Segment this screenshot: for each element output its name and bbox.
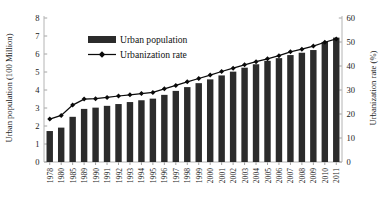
left-tick-label: 4 xyxy=(35,85,40,95)
bar xyxy=(184,87,190,162)
left-tick-label: 2 xyxy=(35,121,39,131)
right-tick-label: 10 xyxy=(347,133,356,143)
line-marker xyxy=(311,44,316,49)
x-category-label: 2008 xyxy=(298,168,307,183)
line-marker xyxy=(299,47,304,52)
bar xyxy=(310,50,316,162)
left-tick-label: 5 xyxy=(35,67,39,77)
line-marker xyxy=(162,86,167,91)
line-marker xyxy=(105,95,110,100)
x-category-label: 1999 xyxy=(195,168,204,183)
bar xyxy=(253,64,259,162)
line-marker xyxy=(82,97,87,102)
bar xyxy=(58,128,64,162)
x-category-label: 1995 xyxy=(149,168,158,183)
x-category-label: 2006 xyxy=(275,168,284,183)
left-axis-title: Urban population (100 Million) xyxy=(4,33,14,142)
left-tick-label: 8 xyxy=(35,13,39,23)
bar xyxy=(138,100,144,162)
line-marker xyxy=(139,91,144,96)
line-marker xyxy=(242,62,247,67)
bar xyxy=(104,106,110,162)
bar xyxy=(92,108,98,162)
x-category-label: 2003 xyxy=(241,168,250,183)
x-category-label: 2010 xyxy=(321,168,330,183)
right-tick-label: 60 xyxy=(347,13,356,23)
bar xyxy=(127,102,133,162)
bar xyxy=(81,109,87,162)
bar xyxy=(322,42,328,162)
bar xyxy=(333,38,339,162)
left-tick-label: 6 xyxy=(35,49,39,59)
bar xyxy=(218,75,224,162)
x-category-label: 1991 xyxy=(103,168,112,183)
legend-entry-urban-population: Urban population xyxy=(88,34,188,45)
line-marker xyxy=(116,94,121,99)
x-category-label: 2000 xyxy=(206,168,215,183)
right-tick-label: 20 xyxy=(347,109,356,119)
bar xyxy=(241,68,247,162)
left-tick-label: 1 xyxy=(35,139,39,149)
x-category-label: 1996 xyxy=(160,168,169,183)
bar xyxy=(264,61,270,162)
x-category-label: 1994 xyxy=(137,168,146,183)
right-axis-ticks: 0102030405060 xyxy=(339,13,355,167)
x-category-label: 2011 xyxy=(332,168,341,183)
legend-label-urbanization-rate: Urbanization rate xyxy=(120,49,187,60)
chart-legend: Urban population Urbanization rate xyxy=(88,34,188,60)
left-tick-label: 7 xyxy=(35,31,39,41)
x-category-label: 1989 xyxy=(80,168,89,183)
x-category-label: 1990 xyxy=(92,168,101,183)
bar-series-urban-population xyxy=(47,38,340,162)
line-marker xyxy=(47,117,52,122)
left-tick-label: 0 xyxy=(35,157,39,167)
bar xyxy=(207,79,213,162)
line-marker xyxy=(288,49,293,54)
x-category-label: 1978 xyxy=(46,168,55,183)
x-category-label: 2005 xyxy=(264,168,273,183)
x-axis-category-labels: 1978198019851989199019911992199319941995… xyxy=(46,168,342,183)
chart-container: 012345678 0102030405060 1978198019851989… xyxy=(0,0,384,209)
bar xyxy=(69,117,75,162)
line-marker xyxy=(150,90,155,95)
x-category-label: 1992 xyxy=(115,168,124,183)
line-markers xyxy=(47,36,339,121)
right-tick-label: 50 xyxy=(347,37,356,47)
line-marker xyxy=(276,53,281,58)
bar xyxy=(161,95,167,162)
x-category-label: 2007 xyxy=(286,168,295,183)
right-axis-title: Urbanization rate (%) xyxy=(368,50,378,125)
x-category-label: 2002 xyxy=(229,168,238,183)
line-marker xyxy=(219,69,224,74)
bar xyxy=(115,104,121,162)
legend-bar-swatch xyxy=(88,36,116,43)
left-tick-label: 3 xyxy=(35,103,39,113)
line-marker xyxy=(93,96,98,101)
legend-entry-urbanization-rate: Urbanization rate xyxy=(88,49,187,60)
bar xyxy=(230,72,236,162)
line-marker xyxy=(231,66,236,71)
bar xyxy=(287,55,293,162)
x-category-label: 2001 xyxy=(218,168,227,183)
legend-label-urban-population: Urban population xyxy=(120,34,188,45)
x-category-label: 1997 xyxy=(172,168,181,183)
right-tick-label: 0 xyxy=(347,157,351,167)
line-marker xyxy=(196,76,201,81)
bar xyxy=(196,83,202,162)
x-category-label: 1980 xyxy=(57,168,66,183)
legend-diamond-marker xyxy=(99,51,105,58)
line-marker xyxy=(127,92,132,97)
right-tick-label: 30 xyxy=(347,85,356,95)
bar xyxy=(47,131,53,162)
bar xyxy=(173,91,179,162)
line-marker xyxy=(173,83,178,88)
dual-axis-combo-chart: 012345678 0102030405060 1978198019851989… xyxy=(0,0,384,209)
line-marker xyxy=(265,56,270,61)
left-axis-ticks: 012345678 xyxy=(35,13,47,167)
line-marker xyxy=(254,59,259,64)
bar xyxy=(150,99,156,162)
line-marker xyxy=(185,79,190,84)
x-category-label: 1993 xyxy=(126,168,135,183)
line-marker xyxy=(208,73,213,78)
bar xyxy=(276,58,282,162)
